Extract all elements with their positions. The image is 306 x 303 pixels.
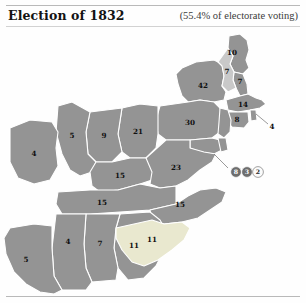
ev-label-pennsylvania: 30 [185,118,195,127]
us-election-map: 10 7 7 42 14 8 30 21 9 5 4 15 23 15 15 1… [0,28,306,294]
state-new-jersey [218,108,231,138]
ev-label-new-hampshire: 7 [237,77,242,86]
callout-leader-line [214,154,228,168]
turnout-note: (55.4% of electorate voting) [180,10,298,21]
ev-label-new-york: 42 [198,81,208,90]
ev-label-illinois: 5 [69,131,74,140]
election-map-figure: Election of 1832 (55.4% of electorate vo… [0,0,306,303]
ev-label-georgia: 11 [129,241,139,250]
new-jersey-dot-label: 8 [234,168,238,175]
ev-label-virginia: 23 [171,163,181,172]
ev-label-south-carolina: 11 [147,235,157,244]
maryland-dot-label: 2 [256,168,260,175]
ev-label-missouri: 4 [31,149,36,158]
ev-label-connecticut: 8 [234,115,239,124]
rhode-island-leader-line [256,114,268,124]
ev-label-alabama: 7 [97,239,102,248]
ev-label-kentucky: 15 [115,171,125,180]
ev-label-massachusetts: 14 [238,100,248,109]
ev-label-maine: 10 [227,48,237,57]
title-underline [6,26,300,27]
bottom-rule [6,296,300,297]
ev-label-mississippi: 4 [65,237,70,246]
ev-label-rhode-island: 4 [269,122,274,131]
ev-label-indiana: 9 [101,131,106,140]
delaware-dot-label: 3 [245,168,249,175]
ev-label-north-carolina: 15 [175,200,185,209]
state-rhode-island [250,110,257,121]
figure-title: Election of 1832 [8,8,125,23]
ev-label-ohio: 21 [133,127,143,136]
ev-label-tennessee: 15 [97,198,107,207]
map-container: 10 7 7 42 14 8 30 21 9 5 4 15 23 15 15 1… [0,28,306,294]
ev-label-louisiana: 5 [23,255,28,264]
ev-label-vermont: 7 [224,67,229,76]
top-rule [6,5,300,6]
